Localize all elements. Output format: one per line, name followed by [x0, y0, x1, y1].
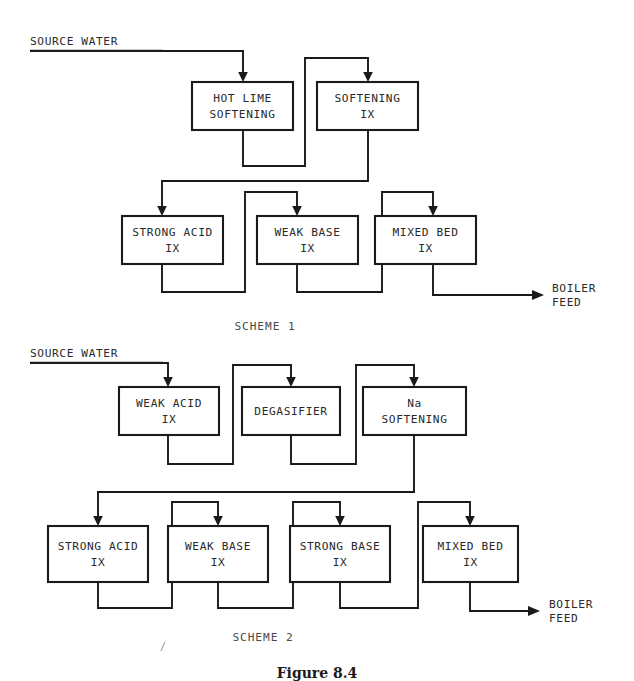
- box-scheme-2-strong-base-ix: STRONG BASE IX: [290, 526, 390, 582]
- box-label-line1: STRONG ACID: [58, 540, 139, 553]
- box-label-line2: SOFTENING: [209, 108, 275, 121]
- box-label-line1: DEGASIFIER: [254, 405, 327, 418]
- box-label-line2: IX: [418, 242, 433, 255]
- box-scheme-2-na-softening: Na SOFTENING: [363, 387, 466, 435]
- scheme-1-label: SCHEME 1: [234, 320, 295, 333]
- scheme-2-boiler-feed-label-line2: FEED: [549, 612, 578, 625]
- box-scheme-1-softening-ix: SOFTENING IX: [317, 82, 418, 130]
- process-flow-diagram: SOURCE WATER BOILER FEED HOT LIME SOFTEN…: [0, 0, 634, 681]
- box-label-line1: STRONG BASE: [300, 540, 381, 553]
- box-outline: [122, 216, 223, 264]
- box-label-line2: IX: [360, 108, 375, 121]
- box-label-line1: WEAK ACID: [136, 397, 202, 410]
- box-outline: [317, 82, 418, 130]
- box-outline: [290, 526, 390, 582]
- box-outline: [192, 82, 293, 130]
- box-label-line2: IX: [463, 556, 478, 569]
- figure-caption-group: Figure 8.4: [277, 665, 358, 681]
- box-outline: [48, 526, 148, 582]
- box-scheme-1-mixed-bed-ix: MIXED BED IX: [375, 216, 476, 264]
- scheme-1-boiler-feed-label-line1: BOILER: [552, 282, 596, 295]
- stray-mark: /: [160, 641, 166, 652]
- box-outline: [363, 387, 466, 435]
- box-scheme-2-strong-acid-ix: STRONG ACID IX: [48, 526, 148, 582]
- box-scheme-2-weak-base-ix: WEAK BASE IX: [168, 526, 268, 582]
- box-scheme-2-mixed-bed-ix: MIXED BED IX: [423, 526, 518, 582]
- scheme-2-boiler-feed-label-line1: BOILER: [549, 598, 593, 611]
- box-outline: [119, 387, 219, 435]
- box-label-line1: MIXED BED: [392, 226, 458, 239]
- box-scheme-2-weak-acid-ix: WEAK ACID IX: [119, 387, 219, 435]
- box-scheme-2-degasifier: DEGASIFIER: [242, 387, 340, 435]
- box-label-line1: WEAK BASE: [185, 540, 251, 553]
- box-label-line1: HOT LIME: [213, 92, 272, 105]
- box-outline: [423, 526, 518, 582]
- box-label-line2: SOFTENING: [381, 413, 447, 426]
- box-scheme-1-weak-base-ix: WEAK BASE IX: [257, 216, 358, 264]
- scheme-2-source-water-label: SOURCE WATER: [30, 347, 118, 360]
- box-label-line1: STRONG ACID: [132, 226, 213, 239]
- box-scheme-1-hot-lime-softening: HOT LIME SOFTENING: [192, 82, 293, 130]
- box-outline: [257, 216, 358, 264]
- box-label-line2: IX: [333, 556, 348, 569]
- box-outline: [375, 216, 476, 264]
- box-scheme-1-strong-acid-ix: STRONG ACID IX: [122, 216, 223, 264]
- figure-caption: Figure 8.4: [277, 665, 358, 681]
- box-label-line1: Na: [407, 397, 422, 410]
- box-label-line1: WEAK BASE: [274, 226, 340, 239]
- box-label-line1: SOFTENING: [334, 92, 400, 105]
- box-label-line2: IX: [162, 413, 177, 426]
- scheme-1-source-water-label: SOURCE WATER: [30, 35, 118, 48]
- scheme-1-boiler-feed-label-line2: FEED: [552, 296, 581, 309]
- box-label-line2: IX: [165, 242, 180, 255]
- box-outline: [168, 526, 268, 582]
- box-label-line2: IX: [211, 556, 226, 569]
- scheme-2-label: SCHEME 2: [232, 631, 293, 644]
- box-label-line2: IX: [300, 242, 315, 255]
- box-label-line2: IX: [91, 556, 106, 569]
- box-label-line1: MIXED BED: [437, 540, 503, 553]
